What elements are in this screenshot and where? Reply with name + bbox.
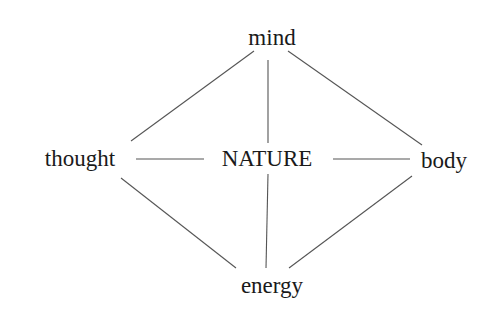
edge-nature-energy bbox=[266, 174, 268, 268]
edge-thought-energy bbox=[121, 178, 236, 268]
edge-mind-thought bbox=[131, 51, 254, 141]
node-mind: mind bbox=[248, 26, 295, 49]
edge-body-energy bbox=[289, 176, 412, 268]
node-nature: NATURE bbox=[222, 147, 313, 170]
edge-mind-body bbox=[288, 51, 422, 145]
node-energy: energy bbox=[241, 274, 303, 297]
node-body: body bbox=[421, 149, 467, 172]
node-thought: thought bbox=[45, 147, 115, 170]
